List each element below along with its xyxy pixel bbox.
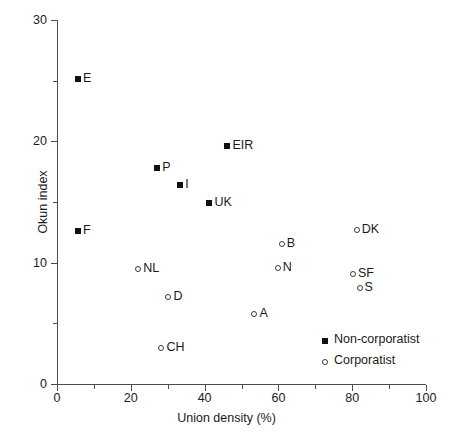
x-tick-label: 40	[185, 392, 225, 405]
y-axis-line	[57, 20, 58, 385]
data-point-label: NL	[143, 262, 159, 275]
data-point-label: P	[162, 161, 170, 174]
filled-square-marker-icon	[322, 338, 328, 344]
y-tick-minor	[53, 323, 57, 324]
data-point-label: A	[259, 307, 267, 320]
data-point-label: B	[287, 237, 295, 250]
y-tick-major	[51, 141, 57, 142]
scatter-plot: 0102030 020406080100 Okun index Union de…	[0, 0, 453, 435]
data-point-label: F	[83, 224, 91, 237]
open-circle-marker-icon	[158, 345, 164, 351]
data-point-label: UK	[214, 196, 231, 209]
data-point-label: N	[283, 261, 292, 274]
y-tick-label: 30	[33, 14, 47, 27]
filled-square-marker-icon	[206, 200, 212, 206]
y-tick-minor	[53, 202, 57, 203]
x-axis-title: Union density (%)	[0, 411, 453, 425]
y-tick-major	[51, 20, 57, 21]
open-circle-marker-icon	[251, 311, 257, 317]
x-tick-label: 80	[332, 392, 372, 405]
open-circle-marker-icon	[357, 285, 363, 291]
filled-square-marker-icon	[75, 76, 81, 82]
x-tick-minor	[168, 385, 169, 389]
open-circle-marker-icon	[279, 241, 285, 247]
data-point-label: S	[365, 281, 373, 294]
open-circle-marker-icon	[135, 266, 141, 272]
data-point-label: D	[173, 290, 182, 303]
open-circle-marker-icon	[275, 265, 281, 271]
y-tick-minor	[53, 81, 57, 82]
data-point-label: EIR	[232, 139, 253, 152]
x-tick-label: 20	[111, 392, 151, 405]
y-tick-label: 20	[33, 135, 47, 148]
x-tick-label: 100	[406, 392, 446, 405]
data-point-label: E	[83, 72, 91, 85]
x-tick-minor	[94, 385, 95, 389]
y-tick-label: 0	[40, 378, 47, 391]
x-tick-label: 0	[37, 392, 77, 405]
filled-square-marker-icon	[224, 143, 230, 149]
y-axis-title: Okun index	[36, 170, 50, 233]
y-tick-label: 10	[33, 257, 47, 270]
legend-item-label: Corporatist	[334, 354, 395, 366]
data-point-label: DK	[362, 223, 379, 236]
x-tick-minor	[389, 385, 390, 389]
filled-square-marker-icon	[177, 182, 183, 188]
open-circle-marker-icon	[322, 359, 328, 365]
x-tick-minor	[242, 385, 243, 389]
filled-square-marker-icon	[154, 165, 160, 171]
x-tick-minor	[315, 385, 316, 389]
filled-square-marker-icon	[75, 228, 81, 234]
legend-item-label: Non-corporatist	[334, 333, 419, 345]
open-circle-marker-icon	[354, 227, 360, 233]
y-tick-major	[51, 263, 57, 264]
open-circle-marker-icon	[350, 271, 356, 277]
open-circle-marker-icon	[165, 294, 171, 300]
data-point-label: CH	[166, 341, 184, 354]
x-tick-label: 60	[258, 392, 298, 405]
data-point-label: I	[185, 178, 188, 191]
data-point-label: SF	[358, 267, 374, 280]
